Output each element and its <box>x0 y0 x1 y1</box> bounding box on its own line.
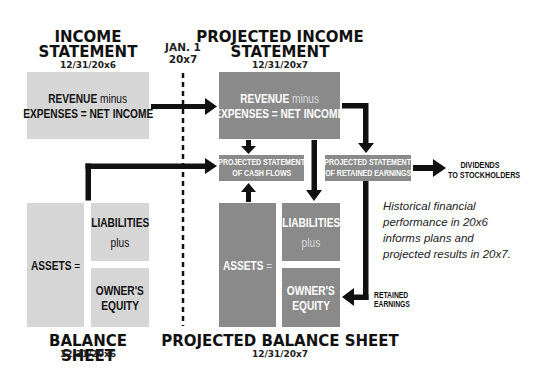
arrow-retained-earnings-to-equity <box>342 181 369 306</box>
arrow-projected-income-to-cash-flows <box>241 140 256 154</box>
arrow-projected-income-to-retained-earnings <box>342 103 374 153</box>
arrow-to-dividends <box>413 159 446 177</box>
arrow-projected-income-to-liabilities <box>306 140 322 201</box>
connector-arrows <box>0 0 538 377</box>
arrow-assets-to-cash-flows <box>241 183 256 202</box>
arrow-balance-sheet-to-cash-flows <box>86 158 218 201</box>
